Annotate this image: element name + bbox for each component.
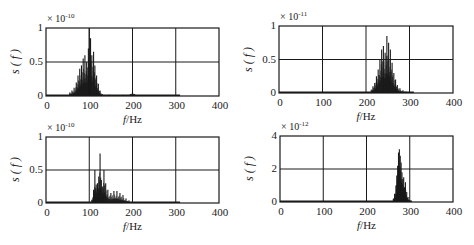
x-tick-label: 0	[265, 97, 295, 108]
x-tick-label: 400	[205, 100, 235, 111]
y-tick-label: 1	[256, 20, 276, 31]
x-tick-label: 400	[439, 206, 469, 217]
plot-area	[46, 28, 219, 96]
spectrum-plot-4	[280, 136, 453, 202]
y-axis-label: s ( f )	[241, 44, 256, 74]
x-tick-label: 400	[205, 207, 235, 218]
x-tick-label: 300	[396, 97, 426, 108]
y-axis-label: s ( f )	[8, 47, 23, 77]
x-tick-label: 100	[75, 207, 105, 218]
y-scale-multiplier: × 10-11	[280, 10, 307, 22]
x-tick-label: 400	[439, 97, 469, 108]
y-tick-label: 0.5	[23, 164, 43, 175]
y-scale-multiplier: × 10-12	[281, 120, 308, 132]
y-axis-label: s ( f )	[242, 154, 257, 184]
y-tick-label: 2	[257, 163, 277, 174]
plot-area	[46, 137, 219, 203]
x-axis-label: f/Hz	[346, 110, 386, 122]
x-tick-label: 200	[119, 207, 149, 218]
plot-area	[279, 26, 453, 93]
x-tick-label: 100	[309, 97, 339, 108]
x-tick-label: 0	[32, 100, 62, 111]
y-scale-multiplier: × 10-10	[47, 12, 74, 24]
y-tick-label: 0.5	[256, 54, 276, 65]
spectrum-series	[280, 149, 412, 202]
plot-area	[280, 136, 453, 202]
spectrum-plot-1	[46, 28, 219, 96]
x-tick-label: 100	[75, 100, 105, 111]
x-tick-label: 100	[309, 206, 339, 217]
x-tick-label: 300	[162, 207, 192, 218]
y-tick-label: 4	[257, 130, 277, 141]
spectrum-plot-3	[46, 137, 219, 203]
x-tick-label: 200	[353, 206, 383, 217]
y-tick-label: 0.5	[23, 56, 43, 67]
spectrum-plot-2	[279, 26, 453, 93]
x-axis-label: f/Hz	[113, 113, 153, 125]
x-tick-label: 200	[119, 100, 149, 111]
y-axis-label: s ( f )	[8, 155, 23, 185]
x-axis-label: f/Hz	[347, 219, 387, 231]
x-tick-label: 200	[352, 97, 382, 108]
y-tick-label: 1	[23, 131, 43, 142]
x-tick-label: 0	[32, 207, 62, 218]
x-tick-label: 300	[162, 100, 192, 111]
y-tick-label: 1	[23, 22, 43, 33]
x-tick-label: 300	[396, 206, 426, 217]
spectrum-series	[279, 36, 414, 93]
x-axis-label: f/Hz	[113, 220, 153, 232]
y-scale-multiplier: × 10-10	[47, 121, 74, 133]
x-tick-label: 0	[266, 206, 296, 217]
spectrum-series	[46, 154, 180, 204]
